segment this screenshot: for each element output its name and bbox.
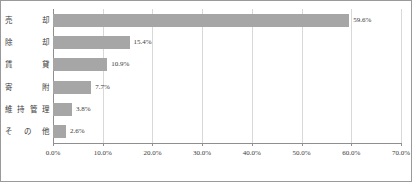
category-label-1: 除 却 xyxy=(5,36,49,49)
chart-container: 0.0%10.0%20.0%30.0%40.0%50.0%60.0%70.0%5… xyxy=(0,0,412,182)
bar-value-label-2: 10.9% xyxy=(111,58,129,71)
bar-value-label-1: 15.4% xyxy=(134,36,152,49)
x-tick-label-2: 20.0% xyxy=(143,148,161,158)
x-tick-label-3: 30.0% xyxy=(193,148,211,158)
bar-row: 3.8%維持管理 xyxy=(1,98,411,120)
category-label-wrap-1: 除 却 xyxy=(5,36,49,49)
x-tick-5 xyxy=(302,143,303,146)
bar-value-label-5: 2.6% xyxy=(70,125,85,138)
category-label-3: 寄 附 xyxy=(5,81,49,94)
category-label-wrap-0: 売 却 xyxy=(5,14,49,27)
category-label-4: 維持管理 xyxy=(5,103,49,116)
x-tick-label-4: 40.0% xyxy=(243,148,261,158)
x-tick-0 xyxy=(53,143,54,146)
x-tick-label-0: 0.0% xyxy=(46,148,61,158)
bar-value-label-4: 3.8% xyxy=(76,103,91,116)
x-tick-label-5: 50.0% xyxy=(293,148,311,158)
bar-4[interactable] xyxy=(53,103,72,116)
category-label-wrap-3: 寄 附 xyxy=(5,81,49,94)
x-tick-2 xyxy=(152,143,153,146)
bar-value-label-0: 59.6% xyxy=(353,14,371,27)
bar-value-label-3: 7.7% xyxy=(95,81,110,94)
bar-row: 15.4%除 却 xyxy=(1,31,411,53)
category-label-wrap-5: その他 xyxy=(5,125,49,138)
category-label-wrap-4: 維持管理 xyxy=(5,103,49,116)
bar-row: 10.9%賃 貸 xyxy=(1,54,411,76)
category-label-2: 賃 貸 xyxy=(5,58,49,71)
bar-0[interactable] xyxy=(53,14,349,27)
x-tick-label-1: 10.0% xyxy=(94,148,112,158)
bar-3[interactable] xyxy=(53,81,91,94)
x-tick-7 xyxy=(401,143,402,146)
bar-row: 59.6%売 却 xyxy=(1,9,411,31)
bar-1[interactable] xyxy=(53,36,130,49)
x-tick-3 xyxy=(202,143,203,146)
category-label-0: 売 却 xyxy=(5,14,49,27)
category-label-wrap-2: 賃 貸 xyxy=(5,58,49,71)
x-tick-6 xyxy=(351,143,352,146)
x-tick-4 xyxy=(252,143,253,146)
x-axis-line xyxy=(53,143,401,144)
x-tick-1 xyxy=(103,143,104,146)
x-tick-label-6: 60.0% xyxy=(342,148,360,158)
category-label-5: その他 xyxy=(5,125,49,138)
x-tick-label-7: 70.0% xyxy=(392,148,410,158)
bar-2[interactable] xyxy=(53,58,107,71)
bar-5[interactable] xyxy=(53,125,66,138)
bar-row: 2.6%その他 xyxy=(1,121,411,143)
bar-row: 7.7%寄 附 xyxy=(1,76,411,98)
